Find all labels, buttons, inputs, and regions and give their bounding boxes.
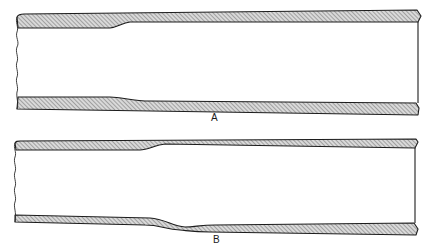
diagram-b [14, 139, 418, 235]
diagram-b-top-wall [15, 139, 418, 150]
diagram-a-break-line [16, 17, 18, 109]
diagram-b-break-line [14, 143, 15, 222]
pipe-diagram: A B [0, 0, 431, 252]
diagram-a-top-wall [17, 10, 421, 28]
diagram-a [16, 10, 421, 115]
diagram-b-bottom-wall [15, 215, 418, 235]
diagram-b-label: B [213, 234, 220, 245]
diagram-a-label: A [211, 112, 218, 123]
